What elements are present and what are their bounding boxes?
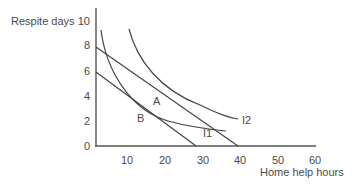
- point-a-label: A: [153, 95, 160, 107]
- indifference-curve-i1: [101, 30, 226, 131]
- x-tick-60: 60: [305, 154, 325, 166]
- curve-i2-label: I2: [242, 114, 251, 126]
- x-tick-50: 50: [268, 154, 288, 166]
- y-tick-8: 8: [76, 39, 90, 51]
- x-tick-30: 30: [193, 154, 213, 166]
- budget-line-inner: [96, 72, 196, 146]
- y-axis-label: Respite days: [11, 15, 75, 27]
- y-tick-2: 2: [76, 115, 90, 127]
- x-tick-20: 20: [155, 154, 175, 166]
- x-tick-10: 10: [117, 154, 137, 166]
- x-tick-40: 40: [230, 154, 250, 166]
- curve-i1-label: I1: [203, 127, 212, 139]
- x-axis-label: Home help hours: [260, 166, 344, 178]
- y-tick-6: 6: [76, 65, 90, 77]
- y-tick-4: 4: [76, 90, 90, 102]
- indifference-curve-i2: [129, 29, 238, 119]
- point-b-label: B: [137, 112, 144, 124]
- budget-line-outer: [96, 47, 238, 146]
- y-tick-0: 0: [76, 140, 90, 152]
- y-tick-10: 10: [76, 15, 90, 27]
